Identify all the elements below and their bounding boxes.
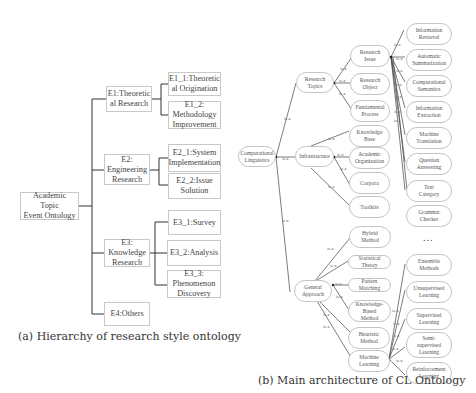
node-question-answering: Question Answering [406, 153, 452, 175]
ellipsis: ... [423, 232, 434, 243]
node-pattern-matching: Pattern Matching [348, 278, 391, 292]
node-statistical-theory: Statistical Theory [348, 255, 391, 269]
node-knowledge-base: Knowledge Base [349, 125, 390, 147]
svg-text:is-a: is-a [323, 325, 329, 329]
node-supervised-learning: Supervised Learning [406, 308, 452, 330]
node-information-extraction: Information Extraction [406, 101, 452, 123]
svg-text:is-a: is-a [395, 83, 401, 87]
svg-text:is-a: is-a [395, 95, 401, 99]
node-research-topics: Research Topics [296, 72, 334, 93]
svg-text:is-a: is-a [284, 117, 290, 121]
svg-text:is-a: is-a [328, 137, 334, 141]
node-text-category: Text Category [406, 180, 452, 202]
node-grammar-checker: Grammar Checker [406, 205, 452, 227]
svg-text:is-a: is-a [340, 67, 346, 71]
svg-text:is-a: is-a [392, 309, 398, 313]
svg-text:is-a: is-a [396, 69, 402, 73]
node-academic-organization: Academic Organization [349, 147, 390, 169]
svg-text:is-a: is-a [323, 313, 329, 317]
node-information-retrieval: Information Retrieval [406, 23, 452, 45]
right-diagram-connectors: is-a is-a is-a is-a is-a is-a is-a is-a … [0, 0, 476, 393]
caption-right: (b) Main architecture of CL Ontology [258, 374, 465, 387]
node-unsupervised-learning: Unsupervised Learning [406, 281, 452, 303]
node-machine-translation: Machine Translation [406, 127, 452, 149]
svg-text:is-a: is-a [392, 347, 398, 351]
svg-text:is-a: is-a [394, 119, 400, 123]
node-research-issue: Research Issue [350, 45, 390, 67]
svg-text:is-a: is-a [339, 92, 345, 96]
node-fundamental-process: Fundamental Process [350, 100, 390, 122]
svg-text:is-a: is-a [327, 247, 333, 251]
node-corpora: Corpora [349, 172, 390, 194]
node-infrastructure: Infrastructure [295, 146, 334, 167]
svg-text:is-a: is-a [330, 264, 336, 268]
node-hybrid-method: Hybrid Method [349, 226, 391, 248]
svg-text:is-a: is-a [282, 157, 288, 161]
svg-text:is-a: is-a [282, 219, 288, 223]
node-toolkits: Toolkits [349, 196, 390, 218]
svg-text:is-a: is-a [396, 57, 402, 61]
node-semi-supervised-learning: Semi- supervised Learning [406, 332, 452, 358]
node-machine-learning: Machine Learning [348, 350, 390, 372]
node-computational-linguistics: Computational Linguistics [238, 146, 276, 167]
svg-text:is-a: is-a [337, 153, 343, 157]
svg-text:is-a: is-a [335, 282, 341, 286]
svg-text:is-a: is-a [394, 110, 400, 114]
node-heuristic-method: Heuristic Method [348, 327, 390, 349]
node-computational-semantics: Computational Semantics [406, 75, 452, 97]
node-ensemble-methods: Ensemble Methods [406, 254, 452, 276]
node-research-object: Research Object [350, 73, 390, 95]
svg-text:is-a: is-a [394, 43, 400, 47]
node-automatic-summarization: Automatic Summarization [406, 49, 452, 71]
node-knowledge-based-method: Knowledge- Based Method [348, 300, 391, 322]
svg-text:is-a: is-a [393, 334, 399, 338]
svg-text:is-a: is-a [340, 167, 346, 171]
node-general-approach: General Approach [294, 280, 332, 302]
svg-text:is-a: is-a [336, 295, 342, 299]
svg-text:is-a: is-a [328, 185, 334, 189]
svg-text:is-a: is-a [339, 79, 345, 83]
svg-text:is-a: is-a [396, 359, 402, 363]
svg-text:is-a: is-a [393, 322, 399, 326]
